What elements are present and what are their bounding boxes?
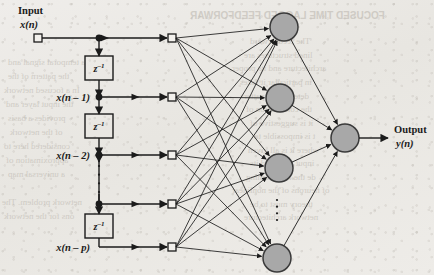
tap-label-2: x(n – 2) [55, 150, 90, 162]
synapse-in0-h0 [176, 29, 269, 38]
network-diagram: Inputx(n)x(n – 1)x(n – 2)x(n – p)z–1z–1z… [0, 0, 434, 275]
synapse-in1-h3 [176, 97, 269, 245]
hidden-4 [263, 244, 291, 272]
output-signal-label: y(n) [394, 138, 414, 150]
synapse-in3-h3 [176, 204, 263, 251]
hidden-2 [266, 84, 294, 112]
input-signal-label: x(n) [19, 19, 38, 31]
input-node-1 [168, 93, 176, 101]
synapse-h1-out [292, 105, 332, 130]
output-layer-group [284, 39, 388, 246]
tap-node-1 [96, 94, 103, 101]
delay-label-1: z–1 [93, 62, 105, 74]
synapse-in4-h3 [176, 247, 262, 256]
synapse-h2-out [292, 144, 331, 162]
delay-label-2: z–1 [93, 120, 105, 132]
tap-label-1: x(n – 1) [55, 92, 90, 104]
hidden-layer-group [263, 13, 298, 272]
input-title: Input [18, 5, 44, 16]
input-node-4 [168, 243, 176, 251]
input-node-2 [168, 151, 176, 159]
hidden-3 [265, 154, 293, 182]
output-neuron [331, 124, 359, 152]
tap-delay-line [34, 34, 176, 251]
tap-node-3 [96, 201, 103, 208]
synapse-in1-h0 [176, 35, 271, 97]
output-title: Output [394, 124, 427, 135]
input-source-node [34, 34, 42, 42]
synapse-in3-h2 [176, 173, 264, 204]
delay-label-3: z–1 [93, 220, 105, 232]
synapse-h0-out [291, 39, 338, 124]
synapse-in0-h3 [176, 38, 271, 244]
synapse-in1-h1 [176, 97, 265, 98]
hidden-1 [270, 13, 298, 41]
tap-node-0 [96, 35, 103, 42]
input-node-3 [168, 200, 176, 208]
tap-node-2 [96, 152, 103, 159]
input-node-0 [168, 34, 176, 42]
tap-label-4: x(n – p) [55, 242, 90, 254]
synapse-in1-h2 [176, 97, 266, 159]
synapse-connections [176, 29, 277, 257]
synapse-in2-h2 [176, 155, 264, 166]
